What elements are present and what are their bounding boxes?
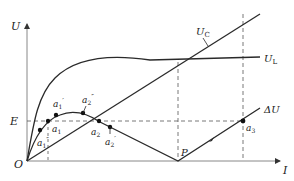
label-a1p: a1′ <box>53 97 64 110</box>
label-a1: a1 <box>52 124 61 135</box>
point-a2 <box>97 119 101 123</box>
label-p: P <box>180 147 188 158</box>
x-axis-label: I <box>282 164 288 177</box>
y-axis-label: U <box>11 20 21 33</box>
ul-label: UL <box>264 53 277 66</box>
label-a2pp: a2″ <box>82 93 94 106</box>
uc-label: UC <box>196 26 210 39</box>
origin-label: O <box>14 158 23 171</box>
point-a1p <box>54 113 58 117</box>
label-a2: a2 <box>91 127 100 138</box>
point-a1 <box>46 119 50 123</box>
label-a1pp: a1″ <box>37 136 49 149</box>
uc-line <box>27 14 260 161</box>
point-a3 <box>241 119 246 124</box>
label-a2p: a2′ <box>105 135 116 148</box>
delta-u-label: ΔU <box>263 104 280 115</box>
label-a3: a3 <box>246 123 255 134</box>
e-label: E <box>9 115 18 128</box>
ferroresonance-diagram: U I O E UC UL ΔU a1′ a1 a1″ a2″ a2 a2′ a… <box>0 0 294 181</box>
direction-arrow-icon <box>209 137 214 142</box>
delta-u-curve <box>27 108 260 161</box>
point-a1pp <box>38 128 42 132</box>
uc-label-leader <box>203 38 208 46</box>
